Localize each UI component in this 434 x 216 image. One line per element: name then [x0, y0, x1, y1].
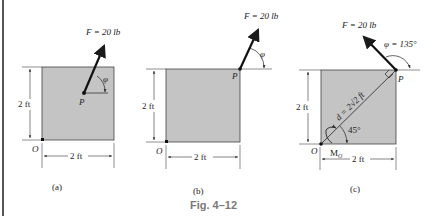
origin-point	[41, 138, 44, 141]
panel-label: (c)	[350, 184, 360, 194]
origin-point	[165, 140, 168, 143]
plate	[166, 69, 240, 142]
origin-label: O	[32, 144, 39, 154]
height-dim-label: 2 ft	[142, 101, 155, 111]
point-label: P	[78, 97, 85, 107]
origin-label: O	[156, 146, 163, 156]
figure-canvas: 2 ft 2 ft O P φ F = 20 lb (a) 2 ft 2 ft	[0, 0, 434, 216]
panel-c: 2 ft 2 ft d = 2√2 ft 45° MO O P φ = 135°…	[296, 20, 420, 194]
height-dim-label: 2 ft	[18, 99, 31, 109]
panel-label: (a)	[52, 182, 62, 192]
height-dim-label: 2 ft	[296, 102, 309, 112]
point-label: P	[397, 74, 404, 84]
force-arrow	[240, 30, 258, 69]
width-dim-label: 2 ft	[70, 151, 83, 161]
figure-caption: Fig. 4–12	[190, 199, 237, 211]
width-dim-label: 2 ft	[194, 152, 207, 162]
origin-point	[319, 142, 323, 146]
angle-label: φ = 135°	[384, 39, 417, 49]
origin-label: O	[311, 146, 318, 156]
angle-label: φ	[260, 49, 265, 59]
force-label: F = 20 lb	[243, 11, 279, 21]
force-label: F = 20 lb	[341, 20, 377, 30]
force-label: F = 20 lb	[85, 27, 121, 37]
panel-label: (b)	[193, 186, 204, 196]
angle-label: φ	[103, 74, 108, 84]
point-label: P	[231, 71, 238, 81]
panel-b: 2 ft 2 ft O P φ F = 20 lb (b)	[142, 11, 279, 196]
moment-label: MO	[330, 148, 343, 159]
diag-angle-label: 45°	[348, 125, 361, 135]
panel-a: 2 ft 2 ft O P φ F = 20 lb (a)	[18, 27, 121, 192]
width-dim-label: 2 ft	[352, 154, 365, 164]
